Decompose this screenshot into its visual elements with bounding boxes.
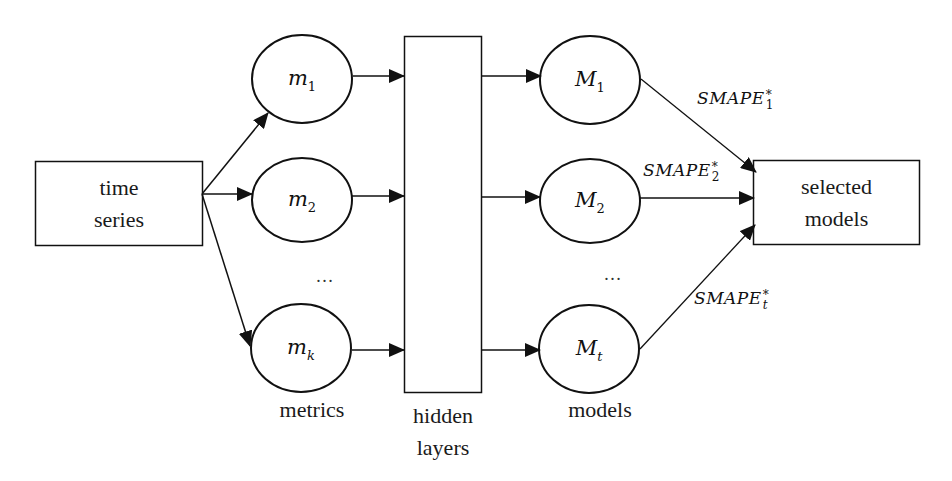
metric-label-m2: m2 — [288, 187, 316, 214]
hidden-layers-box — [405, 37, 482, 393]
arrow-ts-to-mk — [202, 194, 250, 346]
arrow-ts-to-m1 — [202, 113, 268, 194]
metrics-ellipsis: … — [316, 266, 337, 287]
model-label-Mt: Mt — [576, 336, 603, 363]
arrow-Mt-to-selected — [640, 225, 755, 349]
time-series-label: time series — [35, 172, 203, 236]
metric-label-m1: m1 — [288, 66, 316, 93]
hidden-layers-caption: hidden layers — [393, 400, 493, 464]
models-caption: models — [550, 394, 650, 426]
selected-models-label: selected models — [753, 171, 920, 235]
metrics-caption: metrics — [262, 394, 362, 426]
edge-label-smape-1: SMAPE*1 — [697, 88, 774, 110]
models-ellipsis: … — [604, 264, 625, 285]
model-label-M2: M2 — [575, 188, 605, 215]
metric-label-mk: mk — [287, 335, 315, 362]
edge-label-smape-t: SMAPE*t — [694, 288, 769, 310]
model-label-M1: M1 — [575, 67, 605, 94]
edge-label-smape-2: SMAPE*2 — [643, 160, 720, 182]
